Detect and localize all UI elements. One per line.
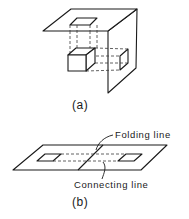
caption-b: (b) (72, 195, 88, 209)
figure-b: Folding line Connecting line (b) (13, 129, 171, 209)
diagram-canvas: (a) Folding line Connecting line (b) (0, 0, 189, 219)
connecting-line-label: Connecting line (74, 179, 149, 190)
folding-line-label: Folding line (115, 129, 171, 140)
cube (68, 48, 95, 71)
figure-a: (a) (43, 9, 137, 112)
caption-a: (a) (72, 98, 88, 112)
